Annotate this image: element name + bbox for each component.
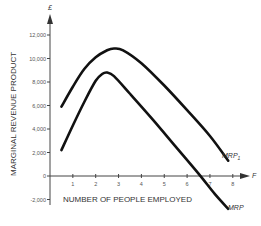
- y-tick-label: 12,000: [29, 32, 46, 38]
- y-tick-label: 10,000: [29, 56, 46, 62]
- y-tick-label: 6,000: [32, 103, 46, 109]
- x-tick-label: 4: [140, 181, 143, 187]
- y-axis-label: MARGINAL REVENUE PRODUCT: [9, 52, 18, 176]
- y-axis-arrow-icon: [47, 14, 53, 24]
- y-unit-label: £: [47, 4, 53, 11]
- x-tick-label: 6: [186, 181, 189, 187]
- x-tick-label: 8: [231, 181, 234, 187]
- y-ticks: -2,00002,0004,0006,0008,00010,00012,000: [29, 32, 50, 203]
- y-tick-label: 0: [43, 173, 46, 179]
- x-tick-label: 1: [71, 181, 74, 187]
- y-tick-label: -2,000: [30, 197, 46, 203]
- mrp-chart: £ F -2,00002,0004,0006,0008,00010,00012,…: [0, 0, 261, 226]
- x-axis-symbol: F: [252, 172, 257, 179]
- mrp1-label: MRP1: [222, 152, 241, 161]
- y-tick-label: 2,000: [32, 150, 46, 156]
- y-tick-label: 4,000: [32, 126, 46, 132]
- x-axis-arrow-icon: [240, 173, 250, 179]
- x-tick-label: 2: [94, 181, 97, 187]
- x-axis-label: NUMBER OF PEOPLE EMPLOYED: [63, 195, 192, 204]
- x-tick-label: 3: [117, 181, 120, 187]
- x-tick-label: 5: [163, 181, 166, 187]
- mrp1-curve: [61, 48, 228, 160]
- mrp-curve: [61, 72, 228, 208]
- y-tick-label: 8,000: [32, 79, 46, 85]
- mrp-label: MRP: [228, 204, 244, 211]
